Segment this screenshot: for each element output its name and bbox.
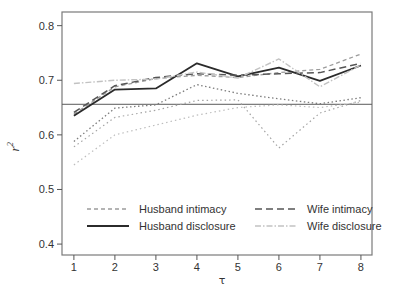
legend-line-sample-husband-disclosure: [86, 221, 130, 231]
legend-line-sample-husband-intimacy: [86, 204, 130, 214]
svg-text:8: 8: [358, 261, 364, 273]
svg-text:0.6: 0.6: [39, 129, 54, 141]
line-chart-plot: 0.40.50.60.70.812345678: [0, 0, 394, 294]
y-axis-label-base: r: [7, 146, 22, 151]
legend-label: Husband disclosure: [139, 220, 236, 232]
legend-entry-husband-disclosure: Husband disclosure: [86, 219, 236, 233]
svg-text:5: 5: [235, 261, 241, 273]
legend-entry-husband-intimacy: Husband intimacy: [86, 202, 226, 216]
svg-text:0.5: 0.5: [39, 183, 54, 195]
svg-text:3: 3: [153, 261, 159, 273]
legend-line-sample-wife-disclosure: [254, 221, 298, 231]
svg-text:6: 6: [276, 261, 282, 273]
x-axis-label: τ: [210, 274, 234, 287]
svg-text:0.8: 0.8: [39, 20, 54, 32]
y-axis-label-superscript: 2: [5, 142, 15, 147]
legend-label: Wife intimacy: [307, 203, 372, 215]
legend-label: Wife disclosure: [307, 220, 382, 232]
svg-text:7: 7: [317, 261, 323, 273]
svg-text:0.4: 0.4: [39, 238, 54, 250]
legend-line-sample-wife-intimacy: [254, 204, 298, 214]
svg-text:0.7: 0.7: [39, 74, 54, 86]
svg-text:4: 4: [194, 261, 200, 273]
y-axis-label: r2: [5, 135, 22, 159]
svg-text:2: 2: [112, 261, 118, 273]
chart-figure: 0.40.50.60.70.812345678 r2 τ Husband int…: [0, 0, 394, 294]
legend-entry-wife-disclosure: Wife disclosure: [254, 219, 382, 233]
svg-text:1: 1: [71, 261, 77, 273]
legend-entry-wife-intimacy: Wife intimacy: [254, 202, 372, 216]
legend-label: Husband intimacy: [139, 203, 226, 215]
